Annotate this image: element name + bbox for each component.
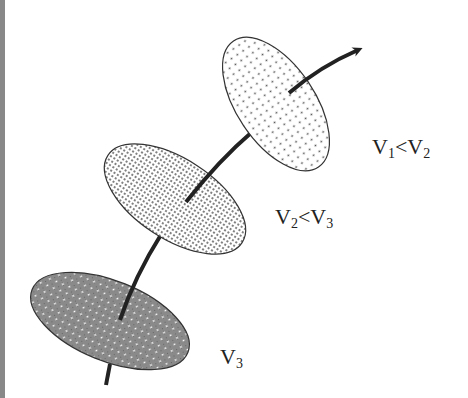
- label-var: V: [372, 134, 388, 159]
- label-v3: V3: [220, 344, 243, 372]
- label-v1-lt-v2: V1<V2: [372, 134, 430, 162]
- label-op: <: [298, 204, 310, 229]
- flow-curve-tail: [106, 364, 110, 385]
- label-sub: 2: [291, 216, 298, 231]
- label-sub: 1: [388, 146, 395, 161]
- label-v2-lt-v3: V2<V3: [275, 204, 333, 232]
- label-var: V: [275, 204, 291, 229]
- label-var: V: [407, 134, 423, 159]
- label-op: <: [395, 134, 407, 159]
- label-sub: 3: [236, 356, 243, 371]
- vortex-diagram: [0, 0, 468, 398]
- label-sub: 3: [326, 216, 333, 231]
- label-var: V: [310, 204, 326, 229]
- label-var: V: [220, 344, 236, 369]
- ellipse-top: [201, 19, 351, 189]
- label-sub: 2: [423, 146, 430, 161]
- diagram-canvas: V1<V2 V2<V3 V3: [0, 0, 468, 398]
